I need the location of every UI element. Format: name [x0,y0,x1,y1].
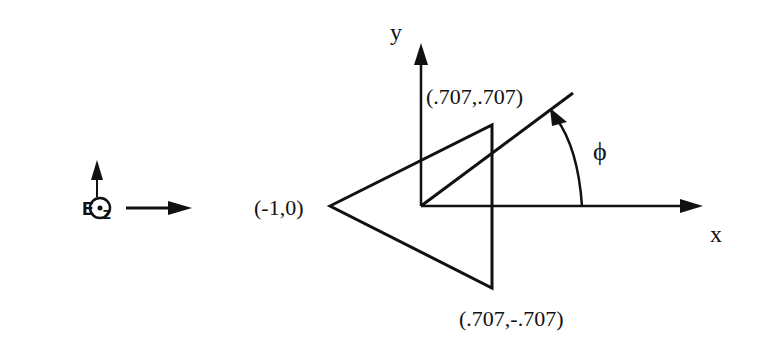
out-of-page-dot-icon [98,206,103,211]
x-axis-label: x [710,221,722,247]
y-axis-arrow-icon [414,43,428,65]
y-axis-label: y [390,19,402,45]
vertex-label-top: (.707,.707) [426,84,523,109]
angle-arc [556,118,582,206]
angle-arrow-icon [550,108,567,126]
x-axis-arrow-icon [680,199,703,213]
field-legend: E z [82,160,192,224]
up-arrow-icon [91,160,103,180]
axes: y x [390,19,722,247]
diagram-canvas: E z y x ϕ (-1,0) (.707,.707) (.707,-.707… [0,0,759,347]
right-arrow-icon [168,201,192,215]
vertex-label-left: (-1,0) [254,195,303,220]
angle-label: ϕ [593,137,607,166]
vertex-label-bottom: (.707,-.707) [459,306,563,331]
